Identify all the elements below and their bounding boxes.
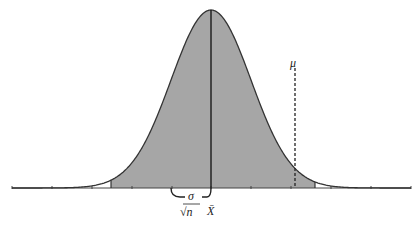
shaded-confidence-region	[111, 10, 315, 188]
normal-distribution-diagram: μ σ √n X̄	[0, 0, 419, 228]
mu-label: μ	[289, 56, 296, 70]
x-bar-label: X̄	[206, 204, 215, 218]
sigma-label: σ	[188, 189, 195, 203]
sqrt-n-label: √n	[180, 205, 193, 219]
